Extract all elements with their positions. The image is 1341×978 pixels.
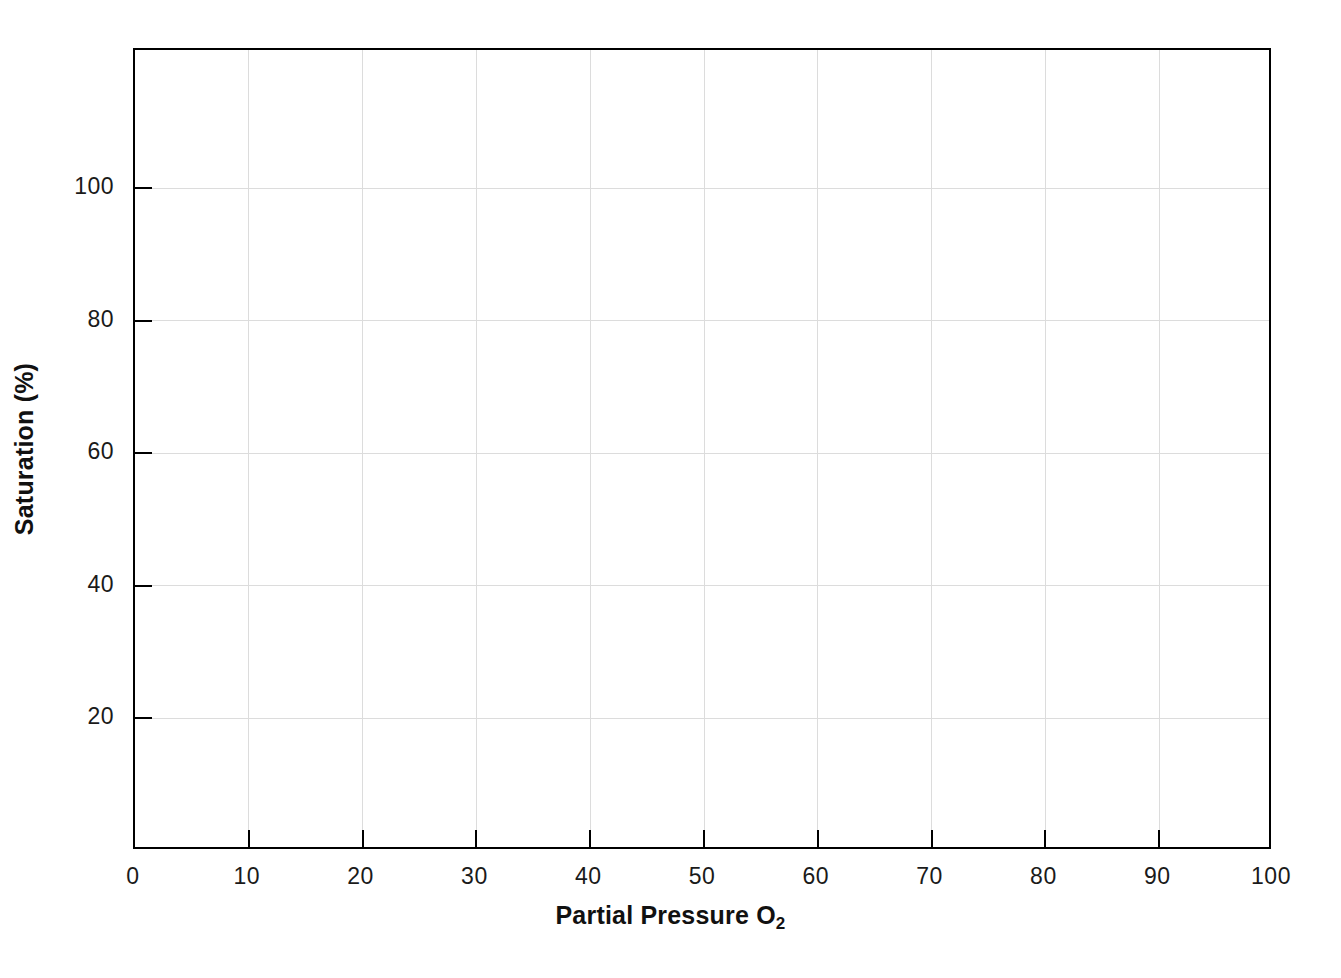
y-tick-label: 60 <box>0 438 114 465</box>
gridline-vertical <box>1159 50 1160 847</box>
gridline-vertical <box>590 50 591 847</box>
x-tick-label: 80 <box>1030 863 1057 890</box>
x-axis-title-subscript: 2 <box>776 914 786 933</box>
x-tick-mark <box>817 830 819 847</box>
gridline-vertical <box>931 50 932 847</box>
figure-canvas: Saturation (%) Partial Pressure O2 01020… <box>0 0 1341 978</box>
x-tick-label: 20 <box>347 863 374 890</box>
x-tick-mark <box>1044 830 1046 847</box>
x-axis-title-text: Partial Pressure O <box>555 901 775 929</box>
gridline-vertical <box>704 50 705 847</box>
gridline-horizontal <box>135 718 1269 719</box>
gridline-vertical <box>248 50 249 847</box>
gridline-horizontal <box>135 453 1269 454</box>
y-tick-mark <box>135 452 152 454</box>
gridline-horizontal <box>135 320 1269 321</box>
plot-area <box>135 50 1269 847</box>
gridline-horizontal <box>135 188 1269 189</box>
y-tick-mark <box>135 187 152 189</box>
x-tick-mark <box>589 830 591 847</box>
y-tick-label: 40 <box>0 570 114 597</box>
x-tick-label: 90 <box>1144 863 1171 890</box>
x-tick-label: 0 <box>126 863 139 890</box>
x-tick-mark <box>1158 830 1160 847</box>
x-tick-mark <box>248 830 250 847</box>
plot-frame <box>133 48 1271 849</box>
x-tick-mark <box>931 830 933 847</box>
x-tick-label: 100 <box>1251 863 1291 890</box>
x-axis-title: Partial Pressure O2 <box>0 901 1341 934</box>
y-tick-label: 80 <box>0 305 114 332</box>
x-tick-label: 70 <box>916 863 943 890</box>
x-tick-label: 60 <box>803 863 830 890</box>
x-tick-label: 40 <box>575 863 602 890</box>
x-tick-label: 50 <box>689 863 716 890</box>
gridline-vertical <box>362 50 363 847</box>
x-tick-mark <box>703 830 705 847</box>
y-tick-label: 100 <box>0 173 114 200</box>
x-tick-label: 10 <box>234 863 261 890</box>
gridline-vertical <box>817 50 818 847</box>
y-tick-mark <box>135 585 152 587</box>
gridline-vertical <box>1045 50 1046 847</box>
gridline-horizontal <box>135 585 1269 586</box>
y-tick-label: 20 <box>0 703 114 730</box>
x-tick-mark <box>362 830 364 847</box>
y-tick-mark <box>135 320 152 322</box>
x-tick-label: 30 <box>461 863 488 890</box>
y-tick-mark <box>135 717 152 719</box>
x-tick-mark <box>475 830 477 847</box>
gridline-vertical <box>476 50 477 847</box>
